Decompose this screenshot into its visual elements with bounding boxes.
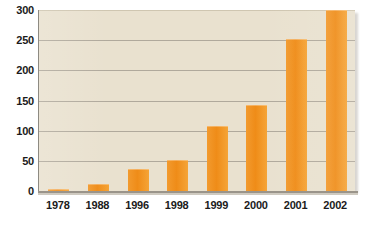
x-tick-label: 2000 xyxy=(236,199,276,212)
bar-top-highlight xyxy=(48,189,69,190)
x-axis: 19781988199619981999200020012002 xyxy=(38,199,355,219)
y-tick-label: 300 xyxy=(0,5,34,16)
bar-top-highlight xyxy=(286,39,307,40)
bar-top-highlight xyxy=(128,169,149,170)
bar xyxy=(207,126,228,191)
y-axis: 050100150200250300 xyxy=(0,0,34,225)
y-tick-label: 0 xyxy=(0,186,34,197)
bar-top-highlight xyxy=(88,184,109,185)
bar-series xyxy=(39,10,355,191)
bar-top-highlight xyxy=(207,126,228,127)
x-tick-label: 1978 xyxy=(38,199,78,212)
bar xyxy=(326,10,347,191)
x-tick-label: 1999 xyxy=(197,199,237,212)
y-tick-label: 250 xyxy=(0,35,34,46)
x-tick-label: 1996 xyxy=(117,199,157,212)
bar-chart: 050100150200250300 197819881996199819992… xyxy=(0,0,380,225)
bar xyxy=(246,105,267,191)
y-tick-label: 200 xyxy=(0,65,34,76)
x-tick-label: 2002 xyxy=(315,199,355,212)
bar xyxy=(88,184,109,191)
x-tick-label: 1998 xyxy=(157,199,197,212)
bar xyxy=(167,160,188,191)
y-tick-label: 150 xyxy=(0,96,34,107)
bar xyxy=(128,169,149,191)
y-tick-label: 100 xyxy=(0,126,34,137)
bar xyxy=(286,39,307,191)
x-tick-label: 1988 xyxy=(78,199,118,212)
x-axis-line-shadow xyxy=(38,193,358,195)
bar-top-highlight xyxy=(246,105,267,106)
y-tick-label: 50 xyxy=(0,156,34,167)
plot-area xyxy=(38,10,355,191)
bar-top-highlight xyxy=(326,10,347,11)
x-tick-label: 2001 xyxy=(276,199,316,212)
bar-top-highlight xyxy=(167,160,188,161)
